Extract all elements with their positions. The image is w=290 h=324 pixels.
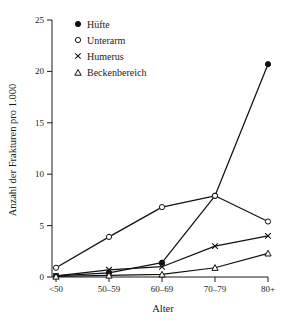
open-triangle-icon [75, 70, 81, 76]
open-circle-icon [75, 37, 80, 42]
open-circle-icon [212, 193, 217, 198]
x-tick-label-80-plus: 80+ [261, 284, 275, 294]
open-circle-icon [106, 234, 111, 239]
open-circle-icon [159, 204, 164, 209]
y-tick-label-10: 10 [35, 169, 45, 179]
filled-circle-icon [265, 62, 270, 67]
x-axis-title: Alter [152, 303, 174, 314]
y-axis-title: Anzahl der Frakturen pro 1.000 [7, 84, 18, 217]
series-line-hufte [56, 64, 268, 276]
x-axis-ticks [56, 277, 268, 282]
x-tick-label-under-50: <50 [49, 284, 64, 294]
open-circle-icon [265, 219, 270, 224]
legend-item-unterarm: Unterarm [75, 35, 125, 46]
legend-label-beckenbereich: Beckenbereich [87, 67, 146, 78]
chart-legend: Hüfte Unterarm Humerus Beckenbereich [75, 19, 147, 78]
y-tick-label-5: 5 [40, 221, 45, 231]
legend-label-unterarm: Unterarm [87, 35, 126, 46]
x-tick-label-60-69: 60–69 [151, 284, 174, 294]
series-unterarm [53, 193, 270, 270]
x-tick-label-50-59: 50–59 [98, 284, 121, 294]
legend-label-humerus: Humerus [87, 51, 124, 62]
y-tick-label-0: 0 [40, 272, 45, 282]
chart-canvas: 0 5 10 15 20 25 <50 50–59 60–69 70–79 80… [0, 0, 290, 324]
fracture-rate-line-chart: 0 5 10 15 20 25 <50 50–59 60–69 70–79 80… [0, 0, 290, 324]
y-tick-label-25: 25 [35, 15, 45, 25]
legend-item-hufte: Hüfte [75, 19, 110, 30]
open-circle-icon [53, 265, 58, 270]
series-line-humerus [56, 236, 268, 276]
series-layer [53, 62, 271, 280]
y-tick-label-15: 15 [35, 118, 45, 128]
y-axis-ticks [47, 20, 52, 277]
cross-icon [75, 53, 80, 58]
legend-item-beckenbereich: Beckenbereich [75, 67, 147, 78]
legend-label-hufte: Hüfte [87, 19, 110, 30]
legend-item-humerus: Humerus [75, 51, 123, 62]
filled-circle-icon [75, 21, 80, 26]
y-tick-label-20: 20 [35, 66, 45, 76]
x-tick-label-70-79: 70–79 [204, 284, 227, 294]
series-hufte [53, 62, 270, 279]
open-triangle-icon [265, 250, 271, 256]
